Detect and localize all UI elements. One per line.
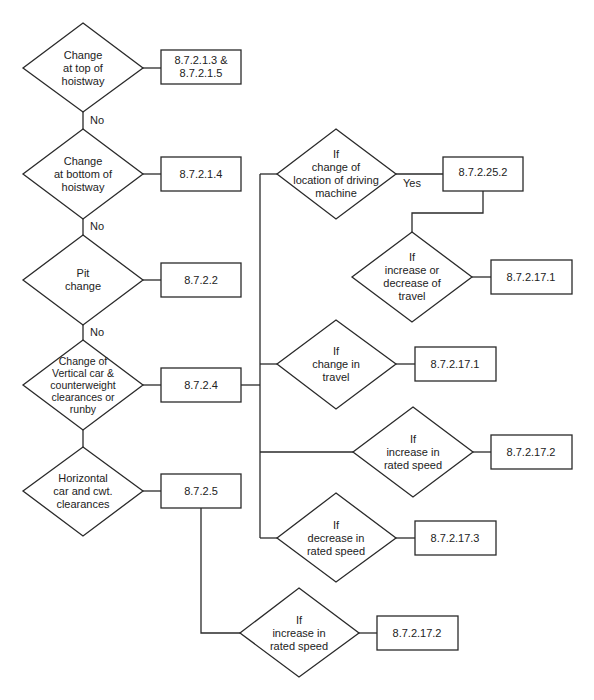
code-reference-box: 8.7.2.4 xyxy=(184,379,218,392)
decision-label: If increase or decrease of travel xyxy=(383,251,440,303)
code-reference-box: 8.7.2.2 xyxy=(184,274,218,287)
decision-label: Change at top of hoistway xyxy=(62,49,105,88)
code-reference-box: 8.7.2.17.2 xyxy=(393,627,442,640)
code-reference-box: 8.7.2.5 xyxy=(184,485,218,498)
decision-label: If change in travel xyxy=(312,345,360,384)
code-reference-box: 8.7.2.1.3 & 8.7.2.1.5 xyxy=(174,54,227,80)
decision-label: If increase in rated speed xyxy=(384,433,442,472)
code-reference-box: 8.7.2.17.2 xyxy=(507,446,556,459)
flowchart-canvas: Change at top of hoistway Change at bott… xyxy=(0,0,594,700)
edge-label-yes: Yes xyxy=(403,177,421,189)
decision-label: Pit change xyxy=(65,267,101,293)
code-reference-box: 8.7.2.17.3 xyxy=(431,532,480,545)
code-reference-box: 8.7.2.25.2 xyxy=(459,166,508,179)
connector-lines xyxy=(0,0,594,700)
decision-label: If change of location of driving machine xyxy=(293,148,379,200)
edge-label-no: No xyxy=(90,326,104,338)
decision-label: Horizontal car and cwt. clearances xyxy=(53,472,112,511)
decision-label: If decrease in rated speed xyxy=(307,519,365,558)
edge-label-no: No xyxy=(90,114,104,126)
code-reference-box: 8.7.2.1.4 xyxy=(180,168,223,181)
code-reference-box: 8.7.2.17.1 xyxy=(507,271,556,284)
decision-label: If increase in rated speed xyxy=(270,614,328,653)
decision-label: Change of Vertical car & counterweight c… xyxy=(50,355,115,415)
code-reference-box: 8.7.2.17.1 xyxy=(431,358,480,371)
edge-label-no: No xyxy=(90,220,104,232)
decision-label: Change at bottom of hoistway xyxy=(54,155,112,194)
